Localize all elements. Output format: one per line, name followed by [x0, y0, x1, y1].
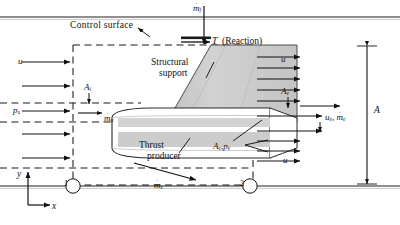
exit-area-subscript: e — [287, 90, 289, 96]
air-flow-symbol: m — [104, 113, 111, 123]
station-2-label: 2 — [240, 179, 244, 188]
thrust-symbol: T — [212, 36, 217, 46]
free-velocity-top-label: u — [281, 55, 286, 64]
overall-area-label: A — [374, 106, 380, 116]
thrust-producer-label-line2: producer — [147, 152, 181, 162]
control-surface-leader — [138, 28, 150, 37]
thrust-note: (Reaction) — [222, 36, 262, 46]
inlet-velocity-label: u — [18, 57, 23, 66]
fuel-mass-flow-label: ̇mf — [193, 4, 201, 14]
inlet-area-label: Ai — [84, 83, 91, 93]
side-flow-arrow — [134, 163, 196, 180]
air-mass-flow-label: ̇ma — [104, 114, 113, 124]
exit-area-pressure-label: Ae,pe — [213, 142, 230, 152]
thrust-producer-label-line1: Thrust — [139, 141, 164, 151]
ambient-pressure-subscript: a — [18, 109, 20, 115]
structural-support-label-line2: support — [159, 69, 188, 79]
exit-velocity-flow-label: ue, ̇me — [325, 113, 345, 123]
station-1-label: 1 — [64, 179, 68, 188]
side-mass-flow-label: ̇ms — [154, 181, 163, 191]
free-velocity-bottom-label: u — [283, 156, 288, 165]
thrust-reaction-arrow — [181, 37, 211, 43]
ambient-pressure-label: pa — [13, 106, 20, 116]
fuel-flow-symbol: m — [193, 3, 200, 13]
axis-y-label: y — [17, 170, 21, 180]
inlet-flow-arrows — [22, 62, 70, 158]
exit-flow-symbol: m — [336, 112, 343, 122]
side-flow-symbol: m — [154, 180, 161, 190]
structural-support-label-line1: Structural — [151, 58, 188, 68]
inlet-area-subscript: i — [90, 86, 92, 92]
exit-flow-subscript: e — [343, 116, 345, 122]
thrust-label: T (Reaction) — [212, 37, 262, 47]
figure-canvas: Control surface ̇mf T (Reaction) Structu… — [0, 0, 400, 225]
exit-area-pressure-p-subscript: e — [228, 145, 230, 151]
control-surface-label: Control surface — [70, 21, 133, 31]
axis-x-label: x — [52, 202, 56, 212]
exit-area-label: Ae — [281, 87, 289, 97]
